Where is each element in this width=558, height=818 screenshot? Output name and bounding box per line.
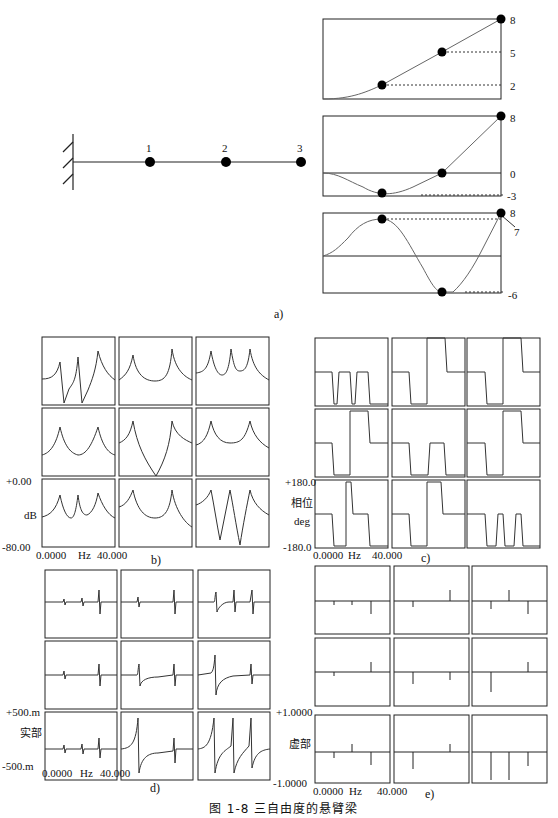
b-x-unit: Hz (78, 549, 91, 561)
node-label-1: 1 (146, 142, 152, 154)
c-x-right: 40.000 (372, 549, 402, 561)
d-y-top: +500.m (6, 706, 40, 718)
e-y-bottom: -1.0000 (273, 777, 307, 789)
mode-shape-2 (323, 116, 523, 206)
panel-d-label: d) (150, 781, 160, 795)
mode1-label-8: 8 (510, 14, 516, 26)
d-x-unit: Hz (80, 767, 93, 779)
b-y-unit: dB (24, 509, 37, 521)
e-y-top: +1.0000 (276, 706, 312, 718)
mode1-label-2: 2 (510, 80, 516, 92)
mode-shape-1 (323, 19, 523, 109)
e-x-right: 40.000 (377, 785, 407, 797)
c-y-unit: deg (294, 515, 310, 527)
node-1 (145, 157, 155, 167)
mode2-label-0: 0 (510, 168, 516, 180)
c-x-unit: Hz (348, 549, 361, 561)
c-x-left: 0.0000 (313, 549, 343, 561)
frf-phase-grid (313, 336, 558, 556)
e-x-left: 0.0000 (313, 785, 343, 797)
b-y-bottom: -80.00 (2, 541, 30, 553)
mode-shape-3 (323, 213, 523, 303)
mode2-label-minus3: -3 (507, 190, 516, 202)
panel-b-label: b) (151, 553, 161, 567)
e-x-unit: Hz (349, 785, 362, 797)
d-x-right: 40.000 (100, 767, 130, 779)
frf-imag-grid (313, 564, 558, 794)
node-label-3: 3 (297, 142, 303, 154)
d-y-bottom: -500.m (2, 760, 33, 772)
b-y-top: +0.00 (6, 475, 31, 487)
mode3-label-7: 7 (514, 226, 520, 238)
mode2-label-8: 8 (510, 112, 516, 124)
node-2 (221, 157, 231, 167)
e-y-unit-cn: 虚部 (289, 738, 311, 750)
frf-real-grid (43, 568, 313, 788)
c-y-bottom: -180.0 (283, 541, 311, 553)
mode3-label-minus6: -6 (508, 289, 517, 301)
mode1-label-5: 5 (510, 47, 516, 59)
panel-c-label: c) (421, 551, 430, 565)
c-y-top: +180.0 (285, 476, 316, 488)
d-y-unit-cn: 实部 (20, 727, 42, 739)
node-label-2: 2 (222, 142, 228, 154)
b-x-left: 0.0000 (36, 549, 66, 561)
panel-a-label: a) (274, 307, 283, 321)
mode3-label-8: 8 (510, 207, 516, 219)
figure-caption: 图 1-8 三自由度的悬臂梁 (209, 799, 358, 816)
c-y-unit-cn: 相位 (291, 497, 313, 509)
panel-e-label: e) (425, 787, 434, 801)
b-x-right: 40.000 (97, 549, 127, 561)
d-x-left: 0.0000 (42, 767, 72, 779)
node-3 (296, 157, 306, 167)
frf-magnitude-grid (40, 335, 310, 555)
